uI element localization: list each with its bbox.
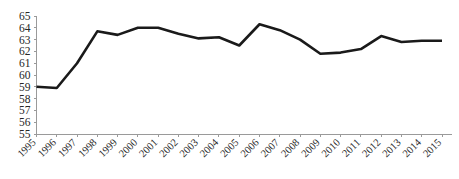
data-series-line: [37, 24, 443, 88]
y-tick-label: 60: [19, 69, 31, 81]
x-tick-label: 2010: [319, 137, 342, 160]
y-tick-label: 58: [19, 93, 31, 105]
y-tick-label: 61: [19, 57, 31, 69]
y-tick-label: 63: [19, 34, 31, 46]
x-tick-label: 2014: [401, 136, 424, 159]
line-chart: 5556575859606162636465 19951996199719981…: [0, 0, 459, 179]
y-tick-labels: 5556575859606162636465: [19, 10, 31, 140]
y-tick-label: 56: [19, 116, 31, 128]
chart-canvas: 5556575859606162636465 19951996199719981…: [0, 0, 459, 179]
x-tick-label: 2003: [177, 137, 200, 160]
x-tick-label: 2015: [421, 137, 444, 160]
x-tick-label: 1997: [56, 137, 79, 160]
y-axis: 5556575859606162636465: [19, 10, 37, 140]
x-tick-labels: 1995199619971998199920002001200220032004…: [15, 136, 443, 159]
x-tick-label: 2011: [340, 137, 362, 159]
x-tick-label: 2002: [157, 137, 180, 160]
x-tick-label: 2006: [238, 137, 261, 160]
x-tick-label: 1999: [96, 137, 119, 160]
x-tick-label: 2009: [299, 137, 322, 160]
x-tick-label: 1995: [15, 137, 38, 160]
x-tick-label: 2005: [218, 137, 241, 160]
series-group: [37, 24, 443, 88]
x-tick-label: 2012: [360, 137, 383, 160]
x-tick-label: 2008: [279, 137, 302, 160]
y-tick-label: 64: [19, 22, 31, 34]
x-axis: 1995199619971998199920002001200220032004…: [15, 134, 452, 159]
x-tick-label: 1998: [76, 137, 99, 160]
x-tick-label: 2001: [137, 137, 160, 160]
x-tick-label: 2004: [198, 136, 221, 159]
x-tick-label: 2000: [117, 137, 140, 160]
x-tick-label: 2013: [380, 137, 403, 160]
x-tick-marks: [37, 134, 443, 137]
y-tick-label: 57: [19, 104, 31, 116]
y-tick-label: 65: [19, 10, 31, 22]
y-tick-label: 59: [19, 81, 31, 93]
x-tick-label: 2007: [259, 137, 282, 160]
y-tick-label: 62: [19, 45, 31, 57]
x-tick-label: 1996: [36, 137, 59, 160]
